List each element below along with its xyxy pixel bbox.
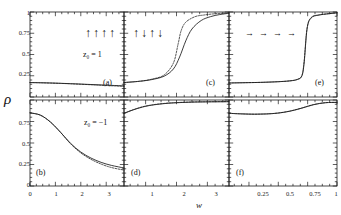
plot-area	[0, 0, 341, 215]
figure-canvas: ρ w 1 0.75 0.5 0.25 0.75 0.5 0.25 0 0 1 …	[0, 0, 341, 215]
